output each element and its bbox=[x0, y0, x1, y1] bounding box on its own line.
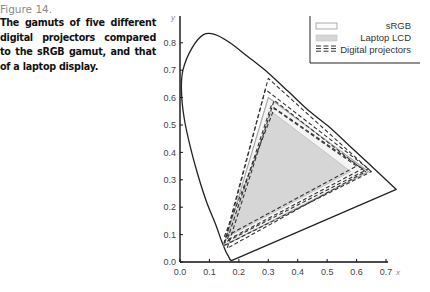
x-tick-label: 0.3 bbox=[262, 267, 275, 277]
legend-label: sRGB bbox=[386, 20, 411, 31]
chromaticity-chart: 0.00.10.20.30.40.50.60.70.00.10.20.30.40… bbox=[0, 0, 430, 292]
y-tick-label: 0.8 bbox=[163, 38, 176, 48]
y-tick-label: 0.3 bbox=[163, 175, 176, 185]
y-tick-label: 0.0 bbox=[163, 257, 176, 267]
y-axis-name: y bbox=[170, 13, 176, 22]
x-axis-name: x bbox=[395, 268, 401, 277]
x-tick-label: 0.5 bbox=[321, 267, 334, 277]
y-tick-label: 0.6 bbox=[163, 93, 176, 103]
y-tick-label: 0.7 bbox=[163, 65, 176, 75]
x-tick-label: 0.6 bbox=[350, 267, 363, 277]
y-tick-label: 0.2 bbox=[163, 202, 176, 212]
x-tick-label: 0.1 bbox=[203, 267, 216, 277]
plot-area bbox=[181, 33, 396, 260]
y-tick-label: 0.4 bbox=[163, 148, 176, 158]
x-tick-label: 0.0 bbox=[174, 267, 187, 277]
legend-label: Digital projectors bbox=[340, 44, 411, 55]
x-tick-label: 0.7 bbox=[380, 267, 393, 277]
y-tick-label: 0.5 bbox=[163, 120, 176, 130]
x-tick-label: 0.4 bbox=[291, 267, 304, 277]
y-tick-label: 0.1 bbox=[163, 230, 176, 240]
legend-swatch-laptop bbox=[316, 35, 337, 41]
legend-label: Laptop LCD bbox=[360, 32, 411, 43]
legend-swatch-srgb bbox=[316, 23, 337, 29]
x-tick-label: 0.2 bbox=[233, 267, 246, 277]
legend: sRGBLaptop LCDDigital projectors bbox=[310, 16, 420, 63]
